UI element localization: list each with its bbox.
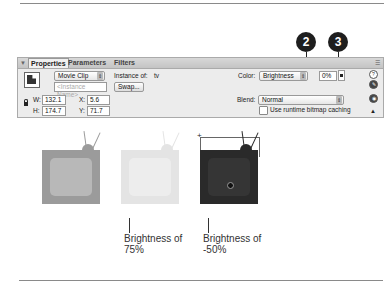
symbol-type-dropdown[interactable]: Movie Clip ⇕ xyxy=(54,71,105,81)
bottom-divider xyxy=(19,280,383,281)
bitmap-caching-checkbox[interactable] xyxy=(259,106,268,115)
lock-proportions-icon[interactable] xyxy=(24,102,28,106)
symbol-type-value: Movie Clip xyxy=(58,72,88,79)
dropdown-arrows-icon: ⇕ xyxy=(97,72,103,80)
x-input[interactable]: 5.6 xyxy=(87,95,110,105)
accessibility-icon[interactable]: ◉ xyxy=(369,94,378,103)
instance-name-input[interactable]: <Instance Name> xyxy=(54,82,107,92)
movie-clip-symbol-icon xyxy=(24,72,40,88)
dropdown-arrows-icon: ⇕ xyxy=(336,96,342,104)
blend-value: Normal xyxy=(262,96,283,103)
blend-label: Blend: xyxy=(237,96,255,104)
help-icon[interactable]: ? xyxy=(369,70,378,79)
y-input[interactable]: 71.7 xyxy=(87,106,110,116)
caption-75-line2: 75% xyxy=(124,244,182,255)
caption-minus-50-line1: Brightness of xyxy=(203,233,261,244)
panel-collapse-icon[interactable]: ▼ xyxy=(20,60,26,66)
caption-75-line1: Brightness of xyxy=(124,233,182,244)
brightness-input[interactable]: 0% xyxy=(319,71,337,81)
swap-button[interactable]: Swap... xyxy=(114,82,144,92)
pointer-line-minus-50 xyxy=(208,218,209,233)
h-label: H: xyxy=(33,107,40,115)
y-label: Y: xyxy=(79,107,85,115)
tab-properties[interactable]: Properties xyxy=(28,58,69,68)
tv-screen xyxy=(208,158,250,196)
color-value: Brightness xyxy=(263,72,294,79)
height-input[interactable]: 174.7 xyxy=(42,106,66,116)
blend-dropdown[interactable]: Normal ⇕ xyxy=(258,95,344,105)
crosshair-icon: + xyxy=(197,132,202,140)
instance-of-value: tv xyxy=(154,72,159,80)
edit-icon[interactable]: ✎ xyxy=(369,80,378,89)
instance-of-label: Instance of: xyxy=(114,72,148,80)
bitmap-caching-label: Use runtime bitmap caching xyxy=(270,106,351,114)
color-label: Color: xyxy=(238,72,255,80)
caption-minus-50: Brightness of -50% xyxy=(203,233,261,255)
caption-75: Brightness of 75% xyxy=(124,233,182,255)
tab-filters[interactable]: Filters xyxy=(114,58,135,68)
pointer-line-75 xyxy=(129,218,130,233)
panel-options-menu-icon[interactable]: ☰ xyxy=(375,59,380,66)
tv-screen xyxy=(129,158,171,196)
panel-tab-bar: ▼ Properties Parameters Filters ☰ xyxy=(18,58,383,69)
tab-parameters[interactable]: Parameters xyxy=(68,58,106,68)
callout-3: 3 xyxy=(328,32,348,52)
width-input[interactable]: 132.1 xyxy=(42,95,66,105)
registration-point-icon xyxy=(227,182,234,189)
collapse-arrow-icon[interactable]: ▲ xyxy=(370,107,376,115)
top-divider xyxy=(20,3,384,4)
w-label: W: xyxy=(33,96,41,104)
color-dropdown[interactable]: Brightness ⇕ xyxy=(259,71,308,81)
brightness-stepper[interactable] xyxy=(338,70,345,81)
dropdown-arrows-icon: ⇕ xyxy=(300,72,306,80)
properties-panel: ▼ Properties Parameters Filters ☰ Movie … xyxy=(17,57,384,118)
caption-minus-50-line2: -50% xyxy=(203,244,261,255)
tv-screen xyxy=(50,158,92,196)
callout-2: 2 xyxy=(296,32,316,52)
x-label: X: xyxy=(79,96,85,104)
